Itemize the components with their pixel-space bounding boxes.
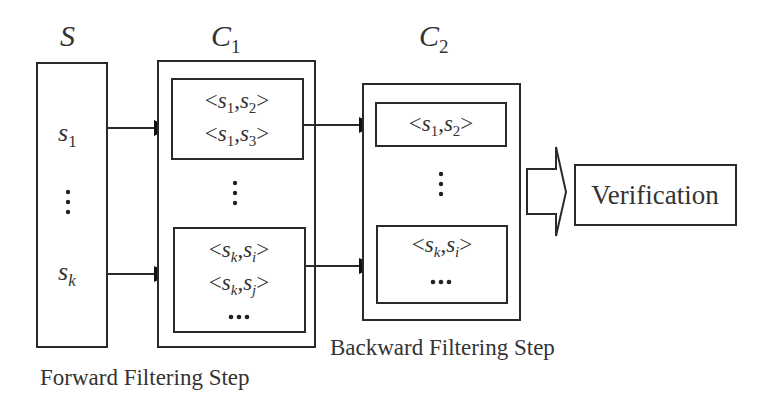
filtering-pipeline-diagram: S s1 sk C1 <s1,s2> <s1,s3> <sk,si> <sk,s… [0,0,764,401]
pair-s1-s2: <s1,s2> [205,88,270,116]
vertical-ellipsis-icon [233,181,237,205]
pair-sk-sj: <sk,sj> [209,270,269,298]
verification-node: Verification [575,165,736,225]
pair-s1-s3: <s1,s3> [205,121,270,149]
forward-filtering-caption: Forward Filtering Step [40,365,250,390]
horizontal-ellipsis-icon [431,280,452,285]
set-c2: C2 <s1,s2> <sk,si> [363,19,520,320]
backward-filtering-caption: Backward Filtering Step [330,335,555,360]
set-c1-label: C1 [211,19,241,57]
set-s: S s1 sk [37,19,107,347]
set-s-label: S [60,19,75,52]
set-c1: C1 <s1,s2> <s1,s3> <sk,si> <sk,sj> [158,19,315,347]
set-s-box [37,63,107,347]
pair-sk-si: <sk,si> [412,232,472,260]
horizontal-ellipsis-icon [229,315,250,320]
set-c2-label: C2 [419,19,449,57]
vertical-ellipsis-icon [66,190,70,214]
block-arrow-icon [527,147,566,236]
pair-sk-si: <sk,si> [209,237,269,265]
pair-s1-s2: <s1,s2> [409,111,474,139]
vertical-ellipsis-icon [439,172,443,196]
verification-label: Verification [591,180,719,210]
